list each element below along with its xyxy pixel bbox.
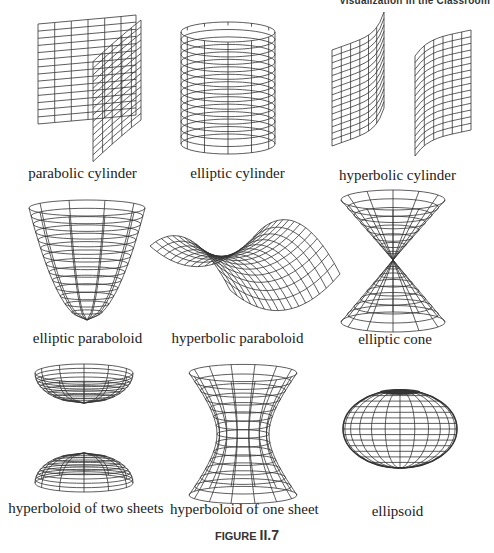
label-hyperbolic-cylinder: hyperbolic cylinder [320, 167, 475, 184]
hyperboloid-one-sheet-mesh [170, 355, 320, 505]
label-elliptic-cone: elliptic cone [330, 331, 460, 348]
elliptic-cylinder-mesh [170, 0, 320, 160]
parabolic-cylinder-mesh [0, 0, 170, 160]
caption-prefix: FIGURE [215, 530, 257, 542]
figure-elliptic-paraboloid: elliptic paraboloid [0, 190, 160, 355]
label-hyperboloid-one-sheet: hyperboloid of one sheet [170, 501, 305, 518]
elliptic-cone-mesh [330, 190, 494, 330]
figure-caption: FIGURE II.7 [0, 527, 494, 543]
figure-hyperbolic-cylinder: hyperbolic cylinder [320, 0, 494, 180]
figure-elliptic-cylinder: elliptic cylinder [170, 0, 320, 180]
label-elliptic-cylinder: elliptic cylinder [170, 165, 305, 182]
figure-hyperboloid-one-sheet: hyperboloid of one sheet [170, 355, 320, 527]
hyperboloid-two-sheets-mesh [0, 355, 170, 505]
ellipsoid-mesh [320, 355, 494, 505]
hyperbolic-cylinder-mesh [320, 0, 494, 160]
label-parabolic-cylinder: parabolic cylinder [0, 165, 165, 182]
label-elliptic-paraboloid: elliptic paraboloid [0, 330, 175, 347]
hyperbolic-paraboloid-mesh [150, 190, 340, 330]
label-ellipsoid: ellipsoid [320, 503, 475, 520]
figure-parabolic-cylinder: parabolic cylinder [0, 0, 170, 180]
figure-hyperbolic-paraboloid: hyperbolic paraboloid [150, 190, 340, 355]
caption-number: II.7 [260, 527, 279, 543]
figure-elliptic-cone: elliptic cone [330, 190, 494, 355]
figure-hyperboloid-two-sheets: hyperboloid of two sheets [0, 355, 170, 527]
figure-ellipsoid: ellipsoid [320, 355, 494, 527]
elliptic-paraboloid-mesh [0, 190, 160, 330]
label-hyperbolic-paraboloid: hyperbolic paraboloid [150, 330, 325, 347]
label-hyperboloid-two-sheets: hyperboloid of two sheets [0, 500, 172, 517]
